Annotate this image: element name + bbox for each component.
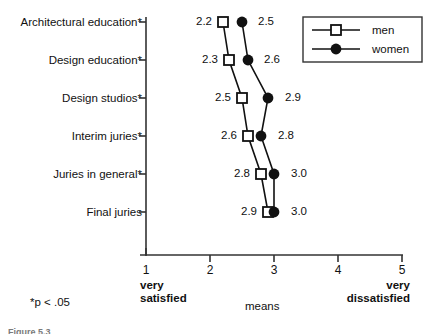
legend-item-label-women: women bbox=[372, 43, 409, 55]
legend-box bbox=[303, 17, 422, 62]
value-label-men-4: 2.8 bbox=[234, 167, 250, 179]
x-axis-low-label-line2: satisfied bbox=[140, 292, 187, 305]
y-category-label-0: Architectural education* bbox=[21, 16, 142, 28]
y-category-label-3: Interim juries* bbox=[72, 130, 142, 142]
value-label-women-4: 3.0 bbox=[291, 167, 307, 179]
chart-canvas bbox=[0, 0, 434, 334]
value-label-men-1: 2.3 bbox=[202, 53, 218, 65]
legend-item-label-men: men bbox=[372, 24, 394, 36]
value-label-women-1: 2.6 bbox=[264, 53, 280, 65]
series-line-women bbox=[242, 22, 274, 212]
series-markers-women bbox=[237, 17, 280, 218]
x-tick-label-3: 3 bbox=[261, 264, 287, 277]
value-label-men-2: 2.5 bbox=[215, 91, 231, 103]
x-tick-label-4: 4 bbox=[325, 264, 351, 277]
x-axis-low-label-line1: very bbox=[140, 279, 164, 292]
figure-container: Architectural education* Design educatio… bbox=[0, 0, 434, 334]
value-label-men-0: 2.2 bbox=[196, 15, 212, 27]
x-axis-title: means bbox=[245, 300, 280, 312]
y-category-label-4: Juries in general* bbox=[53, 168, 142, 180]
y-category-label-2: Design studios* bbox=[62, 92, 142, 104]
y-axis-ticks bbox=[139, 22, 146, 212]
y-category-label-5: Final juries bbox=[86, 206, 142, 218]
x-tick-label-1: 1 bbox=[133, 264, 159, 277]
value-label-women-0: 2.5 bbox=[258, 15, 274, 27]
x-axis-high-label-line2: dissatisfied bbox=[347, 292, 410, 305]
value-label-women-5: 3.0 bbox=[291, 205, 307, 217]
value-label-men-5: 2.9 bbox=[241, 205, 257, 217]
figure-caption: Figure 5.3 bbox=[8, 327, 51, 334]
y-category-label-1: Design education* bbox=[49, 54, 142, 66]
value-label-women-3: 2.8 bbox=[278, 129, 294, 141]
series-line-men bbox=[223, 22, 268, 212]
x-axis-high-label-line1: very bbox=[386, 279, 410, 292]
x-tick-label-2: 2 bbox=[197, 264, 223, 277]
x-tick-label-5: 5 bbox=[389, 264, 415, 277]
value-label-women-2: 2.9 bbox=[285, 91, 301, 103]
value-label-men-3: 2.6 bbox=[221, 129, 237, 141]
significance-footnote: *p < .05 bbox=[30, 296, 70, 308]
